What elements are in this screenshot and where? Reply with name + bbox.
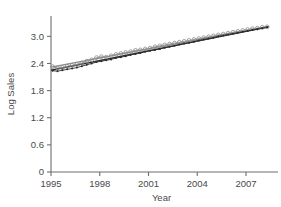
data-point [125, 55, 127, 57]
y-axis-title: Log Sales [5, 73, 16, 116]
x-tick-label: 2001 [138, 178, 159, 189]
data-point [105, 59, 107, 61]
data-point [256, 28, 258, 30]
y-tick-label: 0.6 [31, 139, 44, 150]
data-point [86, 64, 88, 66]
series-observed-upper [51, 25, 269, 70]
data-point [266, 26, 268, 28]
data-point [232, 33, 234, 35]
data-point [178, 43, 180, 45]
data-point [261, 27, 263, 29]
data-point [115, 57, 117, 59]
data-point [139, 52, 141, 54]
x-tick-label: 2004 [187, 178, 208, 189]
data-point [91, 62, 93, 64]
data-point [100, 60, 102, 62]
data-point [81, 65, 83, 67]
data-point [174, 45, 176, 47]
data-point [96, 61, 98, 63]
data-point [237, 32, 239, 34]
data-point [110, 58, 112, 60]
data-point [61, 69, 63, 71]
data-point [169, 46, 171, 48]
labels-layer: 00.61.21.82.43.019951998200120042007Year… [5, 31, 257, 203]
data-point [164, 47, 166, 49]
data-point [247, 30, 249, 32]
data-point [130, 54, 132, 56]
scatter-plot: 00.61.21.82.43.019951998200120042007Year… [0, 0, 281, 207]
data-point [135, 53, 137, 55]
data-point [203, 39, 205, 41]
data-point [217, 35, 219, 37]
data-point [242, 31, 244, 33]
x-tick-label: 2007 [235, 178, 256, 189]
data-point [183, 43, 185, 45]
data-point [198, 39, 200, 41]
x-tick-label: 1998 [89, 178, 110, 189]
data-point [213, 37, 215, 39]
y-tick-label: 3.0 [31, 31, 44, 42]
y-tick-label: 1.2 [31, 112, 44, 123]
x-axis-title: Year [152, 192, 171, 203]
y-tick-label: 0 [39, 166, 44, 177]
data-point [159, 48, 161, 50]
chart-container: 00.61.21.82.43.019951998200120042007Year… [0, 0, 281, 207]
data-point [52, 70, 54, 72]
y-tick-label: 2.4 [31, 58, 44, 69]
y-tick-label: 1.8 [31, 85, 44, 96]
axes-layer [47, 16, 278, 176]
x-tick-label: 1995 [40, 178, 61, 189]
data-point [193, 41, 195, 43]
series-layer [51, 25, 269, 72]
data-point [222, 34, 224, 36]
data-point [188, 42, 190, 44]
data-point [66, 68, 68, 70]
data-point [144, 51, 146, 53]
data-point [57, 70, 59, 72]
data-point [71, 67, 73, 69]
data-point [120, 56, 122, 58]
data-point [154, 49, 156, 51]
data-point [149, 50, 151, 52]
data-point [252, 29, 254, 31]
data-point [76, 67, 78, 69]
data-point [227, 34, 229, 36]
series-observed-lower [52, 26, 269, 72]
data-point [208, 38, 210, 40]
